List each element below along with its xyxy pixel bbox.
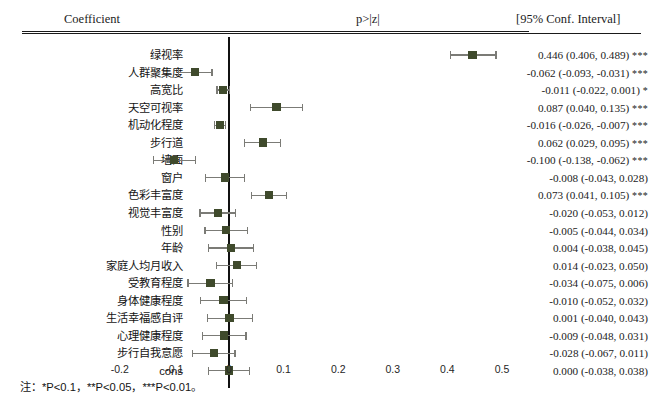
significance-stars: *** xyxy=(629,190,648,201)
row-estimate-value: 0.004 (-0.038, 0.045) xyxy=(470,239,648,257)
coefficient-plot-page: Coefficient p>|z| [95% Conf. Interval] 绿… xyxy=(0,0,653,400)
ci-cap-upper xyxy=(234,350,235,358)
row-estimate-value: 0.062 (0.029, 0.095) *** xyxy=(470,134,648,153)
point-estimate-marker xyxy=(265,191,273,199)
row-estimate-value: -0.009 (-0.048, 0.031) xyxy=(470,327,648,345)
forest-plot-area: 绿视率0.446 (0.406, 0.489) ***人群聚集度-0.062 (… xyxy=(0,33,653,363)
coefficient-row: 绿视率0.446 (0.406, 0.489) *** xyxy=(0,46,653,64)
row-label: 高宽比 xyxy=(18,81,183,99)
ci-cap-lower xyxy=(216,86,217,94)
row-label: 年龄 xyxy=(18,239,183,257)
row-estimate-value: -0.008 (-0.043, 0.028) xyxy=(470,169,648,187)
ci-cap-upper xyxy=(247,227,248,235)
coefficient-row: 心理健康程度-0.009 (-0.048, 0.031) xyxy=(0,327,653,345)
row-estimate-value: -0.062 (-0.093, -0.031) *** xyxy=(470,64,648,83)
significance-stars: *** xyxy=(629,50,648,61)
coefficient-row: 墙面-0.100 (-0.138, -0.062) *** xyxy=(0,151,653,169)
coefficient-row: 家庭人均月收入0.014 (-0.023, 0.050) xyxy=(0,257,653,275)
row-label: 生活幸福感自评 xyxy=(18,309,183,327)
ci-cap-lower xyxy=(187,279,188,287)
row-label: 人群聚集度 xyxy=(18,64,183,82)
coefficient-row: 身体健康程度-0.010 (-0.052, 0.032) xyxy=(0,292,653,310)
header-subrule xyxy=(22,31,529,32)
significance-stars: *** xyxy=(629,68,648,79)
estimate-text: -0.011 (-0.022, 0.001) xyxy=(541,84,639,96)
row-label: 色彩丰富度 xyxy=(18,186,183,204)
ci-cap-upper xyxy=(211,69,212,77)
ci-cap-upper xyxy=(232,279,233,287)
ci-cap-lower xyxy=(199,209,200,217)
estimate-text: -0.020 (-0.053, 0.012) xyxy=(549,207,648,219)
row-label: 家庭人均月收入 xyxy=(18,257,183,275)
row-label: 视觉丰富度 xyxy=(18,204,183,222)
estimate-text: -0.010 (-0.052, 0.032) xyxy=(549,295,648,307)
coefficient-row: 视觉丰富度-0.020 (-0.053, 0.012) xyxy=(0,204,653,222)
ci-cap-lower xyxy=(250,104,251,112)
estimate-text: -0.008 (-0.043, 0.028) xyxy=(549,172,648,184)
row-estimate-value: 0.087 (0.040, 0.135) *** xyxy=(470,99,648,118)
estimate-text: 0.087 (0.040, 0.135) xyxy=(538,102,629,114)
coefficient-row: 人群聚集度-0.062 (-0.093, -0.031) *** xyxy=(0,64,653,82)
significance-stars: *** xyxy=(629,155,648,166)
ci-cap-lower xyxy=(192,350,193,358)
point-estimate-marker xyxy=(220,331,228,339)
significance-footnote: 注：*P<0.1，**P<0.05，***P<0.01。 xyxy=(20,378,202,394)
point-estimate-marker xyxy=(259,138,267,146)
estimate-text: -0.005 (-0.044, 0.034) xyxy=(549,225,648,237)
point-estimate-marker xyxy=(233,261,241,269)
x-tick-label: 0.1 xyxy=(264,363,304,375)
column-header-conf-interval: [95% Conf. Interval] xyxy=(516,12,620,27)
point-estimate-marker xyxy=(272,103,280,111)
estimate-text: 0.062 (0.029, 0.095) xyxy=(538,137,629,149)
ci-cap-lower xyxy=(216,262,217,270)
ci-cap-lower xyxy=(204,227,205,235)
ci-cap-upper xyxy=(256,262,257,270)
estimate-text: -0.100 (-0.138, -0.062) xyxy=(527,154,630,166)
estimate-text: -0.028 (-0.067, 0.011) xyxy=(550,347,648,359)
row-label: 心理健康程度 xyxy=(18,327,183,345)
coefficient-row: 生活幸福感自评0.001 (-0.040, 0.043) xyxy=(0,309,653,327)
estimate-text: 0.004 (-0.038, 0.045) xyxy=(553,242,648,254)
row-estimate-value: -0.100 (-0.138, -0.062) *** xyxy=(470,151,648,170)
significance-stars: *** xyxy=(629,103,648,114)
point-estimate-marker xyxy=(219,296,227,304)
row-label: 步行自我意愿 xyxy=(18,344,183,362)
point-estimate-marker xyxy=(221,173,229,181)
x-tick-label: 0.4 xyxy=(427,363,467,375)
point-estimate-marker xyxy=(210,349,218,357)
row-estimate-value: -0.011 (-0.022, 0.001) * xyxy=(470,81,648,100)
point-estimate-marker xyxy=(227,244,235,252)
estimate-text: 0.014 (-0.023, 0.050) xyxy=(553,260,648,272)
coefficient-row: 步行自我意愿-0.028 (-0.067, 0.011) xyxy=(0,344,653,362)
estimate-text: 0.001 (-0.040, 0.043) xyxy=(553,312,648,324)
row-label: 性别 xyxy=(18,222,183,240)
significance-stars: *** xyxy=(629,120,648,131)
x-tick-label: -0.1 xyxy=(154,363,194,375)
ci-cap-upper xyxy=(195,156,196,164)
coefficient-row: 色彩丰富度0.073 (0.041, 0.105) *** xyxy=(0,186,653,204)
estimate-text: -0.016 (-0.026, -0.007) xyxy=(527,119,630,131)
point-estimate-marker xyxy=(206,279,214,287)
row-label: 绿视率 xyxy=(18,46,183,64)
point-estimate-marker xyxy=(225,314,233,322)
ci-cap-upper xyxy=(286,192,287,200)
ci-cap-lower xyxy=(202,332,203,340)
coefficient-row: 受教育程度-0.034 (-0.075, 0.006) xyxy=(0,274,653,292)
estimate-text: -0.062 (-0.093, -0.031) xyxy=(527,67,630,79)
ci-cap-lower xyxy=(208,244,209,252)
significance-stars: *** xyxy=(629,138,648,149)
x-tick-label: 0.3 xyxy=(373,363,413,375)
ci-cap-lower xyxy=(251,192,252,200)
row-estimate-value: -0.010 (-0.052, 0.032) xyxy=(470,292,648,310)
ci-cap-lower xyxy=(205,174,206,182)
ci-cap-upper xyxy=(245,332,246,340)
row-label: 步行道 xyxy=(18,134,183,152)
ci-cap-upper xyxy=(253,244,254,252)
ci-cap-upper xyxy=(225,121,226,129)
x-axis-tick-labels: -0.2-0.100.10.20.30.40.5 xyxy=(0,363,653,379)
x-tick-label: 0.2 xyxy=(318,363,358,375)
point-estimate-marker xyxy=(216,121,224,129)
row-label: 受教育程度 xyxy=(18,274,183,292)
point-estimate-marker xyxy=(214,209,222,217)
row-estimate-value: -0.034 (-0.075, 0.006) xyxy=(470,274,648,292)
